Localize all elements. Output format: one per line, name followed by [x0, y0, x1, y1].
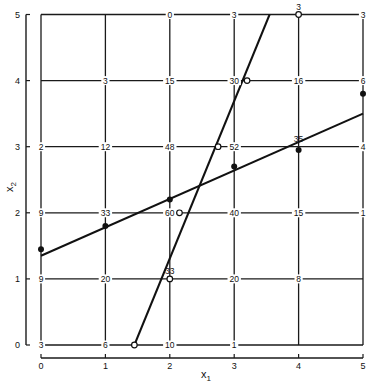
grid-node-label: 8	[296, 274, 301, 284]
filled-data-point	[38, 246, 44, 252]
grid-node-label: 30	[229, 76, 239, 86]
grid-node-label: 12	[101, 142, 111, 152]
grid-node-label: 3	[361, 10, 366, 20]
filled-data-point	[296, 147, 302, 153]
grid-node-label: 48	[165, 142, 175, 152]
grid-node-label: 1	[232, 340, 237, 350]
x-axis-label: x1	[201, 368, 212, 383]
y-tick-label: 3	[15, 142, 20, 152]
grid-node-label: 15	[294, 208, 304, 218]
grid-node-label: 9	[39, 208, 44, 218]
grid-node-label: 4	[361, 142, 366, 152]
shallow-fit-line	[41, 114, 363, 256]
grid-node-label: 60	[165, 208, 175, 218]
grid-node-label: 10	[165, 340, 175, 350]
grid-node-label: 1	[361, 208, 366, 218]
filled-data-point	[360, 91, 366, 97]
grid-node-label: 3	[232, 10, 237, 20]
y-axis-label: x2	[3, 182, 18, 193]
grid-node-label: 52	[229, 142, 239, 152]
chart-canvas: 012345012345 033331530166212485235493360…	[0, 0, 372, 387]
open-data-point	[177, 210, 183, 216]
fit-lines	[41, 15, 363, 346]
grid-node-label: 3	[296, 2, 301, 12]
open-data-point	[215, 144, 221, 150]
open-data-point	[132, 342, 138, 348]
grid-node-label: 9	[39, 274, 44, 284]
grid-node-label: 2	[39, 142, 44, 152]
steep-fit-line	[134, 15, 269, 346]
open-data-point	[244, 78, 250, 84]
x-tick-label: 1	[103, 361, 108, 371]
x-tick-label: 5	[360, 361, 365, 371]
grid-node-label: 3	[39, 340, 44, 350]
grid-node-label: 0	[167, 10, 172, 20]
grid-node-label: 20	[229, 274, 239, 284]
grid-node-label: 16	[294, 76, 304, 86]
filled-data-point	[167, 197, 173, 203]
filled-data-point	[102, 223, 108, 229]
open-data-point	[167, 276, 173, 282]
open-data-point	[296, 12, 302, 18]
filled-data-point	[231, 164, 237, 170]
grid-node-label: 40	[229, 208, 239, 218]
grid-node-label: 20	[101, 274, 111, 284]
y-tick-label: 0	[15, 340, 20, 350]
grid-node-labels: 0333315301662124852354933604015192033208…	[37, 2, 367, 351]
grid-node-label: 6	[103, 340, 108, 350]
y-tick-label: 4	[15, 76, 20, 86]
grid-node-label: 6	[361, 76, 366, 86]
x-tick-label: 4	[296, 361, 301, 371]
grid-node-label: 33	[165, 266, 175, 276]
x-tick-label: 3	[232, 361, 237, 371]
grid-node-label: 33	[101, 208, 111, 218]
y-tick-label: 5	[15, 10, 20, 20]
grid-node-label: 3	[103, 76, 108, 86]
grid-node-label: 15	[165, 76, 175, 86]
x-tick-label: 2	[167, 361, 172, 371]
x-tick-label: 0	[38, 361, 43, 371]
y-tick-label: 1	[15, 274, 20, 284]
y-tick-label: 2	[15, 208, 20, 218]
grid-node-label: 35	[294, 134, 304, 144]
